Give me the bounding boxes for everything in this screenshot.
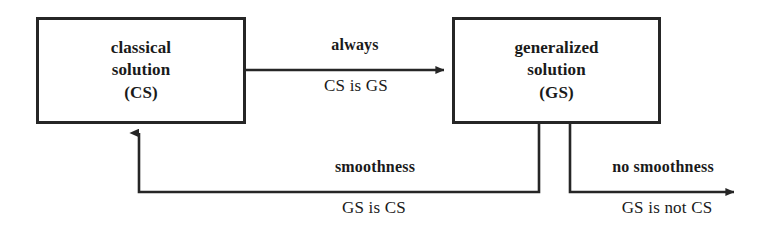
node-classical-line-2: solution (112, 59, 170, 81)
edge-label-always: always (300, 36, 410, 54)
node-generalized-line-2: solution (527, 59, 585, 81)
edge-label-smoothness: smoothness (300, 158, 450, 176)
edge-label-cs-is-gs: CS is GS (296, 76, 416, 96)
edge-label-no-smoothness: no smoothness (588, 158, 738, 176)
node-classical-line-3: (CS) (124, 82, 157, 104)
diagram-canvas: classical solution (CS) generalized solu… (0, 0, 774, 236)
node-classical-line-1: classical (111, 37, 171, 59)
node-generalized-solution: generalized solution (GS) (452, 17, 661, 124)
edge-label-gs-is-not-cs: GS is not CS (592, 198, 742, 218)
edge-label-gs-is-cs: GS is CS (304, 198, 444, 218)
node-classical-solution: classical solution (CS) (36, 17, 246, 124)
node-generalized-line-1: generalized (514, 37, 598, 59)
node-generalized-line-3: (GS) (539, 82, 573, 104)
